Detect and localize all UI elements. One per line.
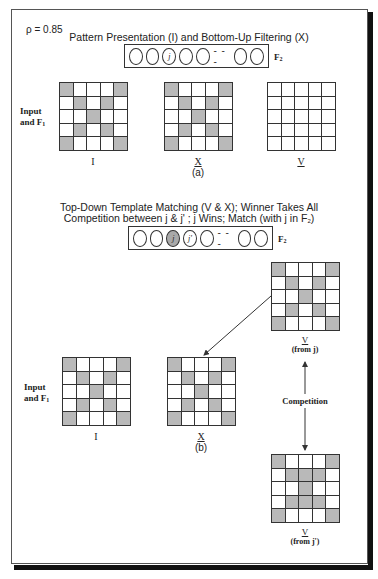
top-down-arrow: [204, 296, 271, 355]
competition-label: Competition: [275, 396, 335, 406]
arrows-layer: [0, 0, 378, 579]
